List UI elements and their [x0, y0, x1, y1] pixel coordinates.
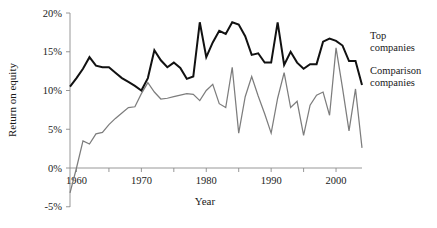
return-on-equity-line-chart: -5%0%5%10%15%20% Return on equity 196019…	[0, 0, 437, 228]
series-line-top-companies	[70, 22, 362, 90]
x-axis-title: Year	[195, 195, 216, 207]
chart-container: -5%0%5%10%15%20% Return on equity 196019…	[0, 0, 437, 228]
x-axis-tick-marks	[76, 168, 336, 172]
x-tick-label-2000: 2000	[326, 175, 347, 186]
y-tick-label--5%: -5%	[45, 201, 63, 212]
y-axis: -5%0%5%10%15%20% Return on equity	[6, 8, 70, 213]
y-axis-title: Return on equity	[6, 63, 18, 137]
y-tick-label-15%: 15%	[43, 46, 63, 57]
y-tick-label-5%: 5%	[48, 124, 62, 135]
x-axis-tick-labels: 19601970198019902000	[66, 175, 347, 186]
x-axis: 19601970198019902000 Year	[66, 168, 362, 207]
plot-series-group	[70, 22, 362, 193]
x-tick-label-1980: 1980	[196, 175, 217, 186]
y-tick-label-10%: 10%	[43, 85, 63, 96]
legend-label-top-companies-line1: Top	[370, 30, 386, 41]
legend-label-top-companies-line2: companies	[370, 42, 415, 53]
y-axis-tick-labels: -5%0%5%10%15%20%	[43, 8, 63, 213]
legend-label-comparison-companies-line1: Comparison	[370, 65, 422, 76]
x-tick-label-1960: 1960	[66, 175, 87, 186]
series-line-comparison-companies	[70, 48, 362, 193]
x-tick-label-1970: 1970	[131, 175, 152, 186]
chart-legend: Top companies Comparison companies	[370, 30, 422, 88]
y-tick-label-20%: 20%	[43, 8, 63, 19]
x-tick-label-1990: 1990	[261, 175, 282, 186]
legend-label-comparison-companies-line2: companies	[370, 77, 415, 88]
y-tick-label-0%: 0%	[48, 163, 62, 174]
